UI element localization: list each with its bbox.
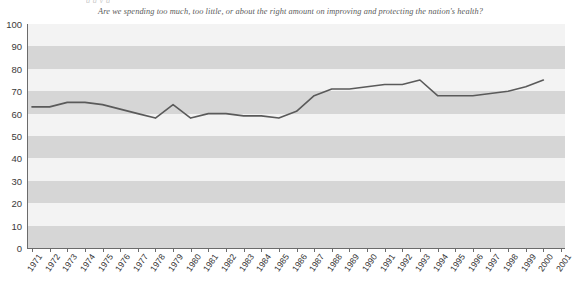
y-axis-labels: 1009080706050403020100 — [0, 24, 26, 248]
x-tick-label-1995: 1995 — [448, 252, 467, 273]
header-fragment-text: g g y g — [86, 0, 110, 3]
chart-container: g g y g Are we spending too much, too li… — [0, 0, 581, 284]
x-tick-label-1980: 1980 — [184, 252, 203, 273]
x-tick-label-1996: 1996 — [466, 252, 485, 273]
x-tick-label-1997: 1997 — [483, 252, 502, 273]
x-tick-label-1974: 1974 — [78, 252, 97, 273]
y-tick-label-70: 70 — [11, 86, 22, 97]
x-tick-label-1984: 1984 — [254, 252, 273, 273]
y-tick-label-40: 40 — [11, 153, 22, 164]
x-tick-label-1988: 1988 — [325, 252, 344, 273]
x-tick-label-1993: 1993 — [413, 252, 432, 273]
x-tick-label-1975: 1975 — [96, 252, 115, 273]
x-tick-label-1987: 1987 — [307, 252, 326, 273]
x-tick-label-1978: 1978 — [148, 252, 167, 273]
x-tick-label-2001: 2001 — [554, 252, 573, 273]
x-tick-label-1994: 1994 — [431, 252, 450, 273]
plot-area — [28, 24, 565, 248]
x-tick-label-1989: 1989 — [342, 252, 361, 273]
x-tick-label-1991: 1991 — [378, 252, 397, 273]
x-tick-label-1999: 1999 — [519, 252, 538, 273]
x-tick-label-1990: 1990 — [360, 252, 379, 273]
x-tick-label-1972: 1972 — [43, 252, 62, 273]
y-tick-label-100: 100 — [6, 19, 22, 30]
x-tick-label-2000: 2000 — [536, 252, 555, 273]
y-tick-label-80: 80 — [11, 63, 22, 74]
x-tick-label-1983: 1983 — [237, 252, 256, 273]
x-axis-labels: 1971197219731974197519761977197819791980… — [28, 252, 565, 284]
x-tick-label-1986: 1986 — [290, 252, 309, 273]
x-tick-label-1982: 1982 — [219, 252, 238, 273]
chart-subtitle: Are we spending too much, too little, or… — [0, 7, 581, 16]
x-tick-label-1992: 1992 — [395, 252, 414, 273]
y-tick-label-60: 60 — [11, 108, 22, 119]
x-tick-label-1981: 1981 — [201, 252, 220, 273]
x-tick-label-1998: 1998 — [501, 252, 520, 273]
series-line-too-little — [32, 80, 543, 118]
x-tick-label-1973: 1973 — [60, 252, 79, 273]
y-tick-label-10: 10 — [11, 220, 22, 231]
y-tick-label-90: 90 — [11, 41, 22, 52]
y-tick-label-50: 50 — [11, 131, 22, 142]
x-tick-label-1976: 1976 — [113, 252, 132, 273]
x-tick-label-1985: 1985 — [272, 252, 291, 273]
y-tick-label-30: 30 — [11, 175, 22, 186]
y-tick-label-0: 0 — [17, 243, 22, 254]
x-tick-label-1979: 1979 — [166, 252, 185, 273]
x-tick-label-1977: 1977 — [131, 252, 150, 273]
x-tick-label-1971: 1971 — [25, 252, 44, 273]
y-tick-label-20: 20 — [11, 198, 22, 209]
data-line-series — [28, 24, 565, 248]
